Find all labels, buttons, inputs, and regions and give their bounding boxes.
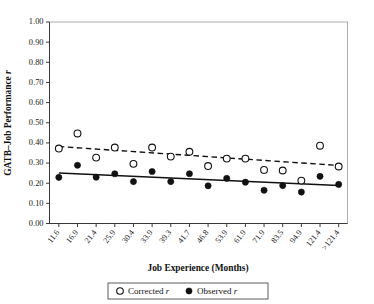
x-tick-label: 83.5 [269, 228, 285, 245]
x-tick-label: 61.9 [232, 228, 248, 245]
data-point-observed [112, 171, 118, 177]
data-point-corrected [130, 160, 137, 167]
y-tick-label: 0.10 [29, 199, 44, 208]
x-tick-label: >121.4 [320, 228, 341, 252]
data-point-observed [242, 179, 248, 185]
x-tick-label: 25.9 [101, 228, 117, 245]
data-point-observed [186, 171, 192, 177]
data-point-corrected [167, 153, 174, 160]
y-tick-label: 0.60 [29, 98, 44, 107]
chart-figure: 0.000.100.200.300.400.500.600.700.800.90… [0, 0, 374, 304]
chart-svg: 0.000.100.200.300.400.500.600.700.800.90… [0, 0, 374, 304]
data-point-corrected [298, 177, 305, 184]
data-point-corrected [74, 130, 81, 137]
data-point-observed [130, 178, 136, 184]
x-tick-label: 71.9 [251, 228, 267, 245]
legend-open-circle-icon [117, 288, 124, 295]
data-point-observed [317, 173, 323, 179]
x-tick-label: 33.9 [139, 228, 155, 245]
data-point-observed [261, 187, 267, 193]
x-tick-label: 21.4 [83, 228, 99, 245]
y-tick-label: 0.40 [29, 138, 44, 147]
y-tick-label: 0.30 [29, 158, 44, 167]
x-tick-label: 39.3 [157, 228, 173, 245]
data-point-observed [168, 178, 174, 184]
y-tick-label: 0.00 [29, 219, 44, 228]
data-point-corrected [93, 154, 100, 161]
x-tick-label: 46.8 [195, 228, 211, 245]
x-tick-label: 94.9 [288, 228, 304, 245]
y-tick-label: 0.70 [29, 78, 44, 87]
data-point-corrected [149, 144, 156, 151]
x-axis-ticks: 11.616.921.425.930.433.939.341.746.853.9… [46, 224, 342, 252]
data-point-observed [205, 183, 211, 189]
trendline-observed-r [59, 173, 339, 186]
chart-legend: Corrected r Observed r [108, 283, 268, 299]
legend-filled-circle-icon [186, 288, 192, 294]
y-axis-ticks: 0.000.100.200.300.400.500.600.700.800.90… [29, 17, 50, 228]
data-point-observed [149, 168, 155, 174]
legend-label-corrected: Corrected r [128, 286, 170, 296]
trend-lines [59, 147, 339, 186]
y-tick-label: 0.80 [29, 58, 44, 67]
data-point-corrected [55, 145, 62, 152]
data-point-corrected [317, 142, 324, 149]
y-tick-label: 0.90 [29, 38, 44, 47]
x-tick-label: 30.4 [120, 228, 136, 245]
x-tick-label: 11.6 [46, 228, 62, 245]
data-point-corrected [261, 167, 268, 174]
y-axis-title: GATB–Job Performance r [3, 70, 13, 176]
data-point-corrected [205, 163, 212, 170]
data-point-observed [56, 174, 62, 180]
data-point-corrected [111, 144, 118, 151]
y-tick-label: 1.00 [29, 17, 44, 26]
data-point-observed [224, 175, 230, 181]
data-point-observed [93, 174, 99, 180]
y-tick-label: 0.20 [29, 179, 44, 188]
data-point-corrected [242, 155, 249, 162]
x-tick-label: 53.9 [213, 228, 229, 245]
trendline-corrected-r [59, 147, 339, 166]
data-point-observed [74, 162, 80, 168]
data-point-corrected [223, 155, 230, 162]
x-axis-title: Job Experience (Months) [147, 263, 248, 274]
data-point-observed [336, 181, 342, 187]
y-tick-label: 0.50 [29, 118, 44, 127]
data-point-observed [280, 183, 286, 189]
legend-label-observed: Observed r [197, 286, 238, 296]
data-point-corrected [279, 167, 286, 174]
data-point-observed [298, 189, 304, 195]
x-tick-label: 41.7 [176, 228, 192, 245]
x-tick-label: 16.9 [64, 228, 80, 245]
data-point-corrected [186, 148, 193, 155]
data-point-corrected [335, 163, 342, 170]
